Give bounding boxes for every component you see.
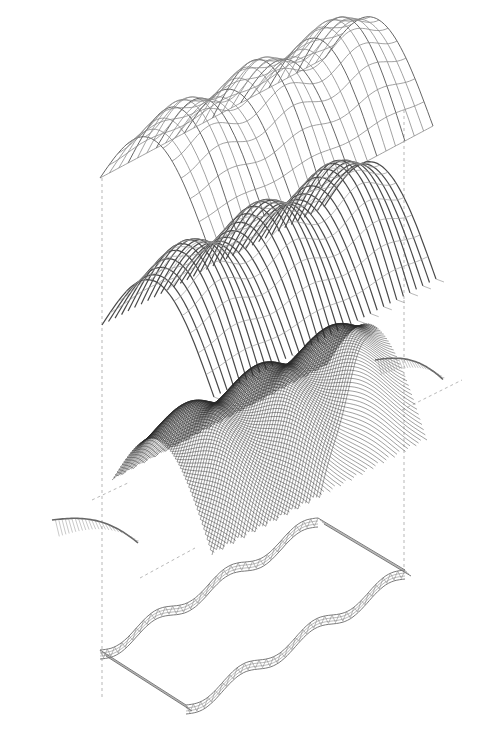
base-truss-ring	[100, 518, 411, 714]
exploded-axonometric-diagram	[0, 0, 500, 733]
end-arch-left	[52, 518, 139, 543]
diagrid-mesh	[112, 323, 427, 555]
